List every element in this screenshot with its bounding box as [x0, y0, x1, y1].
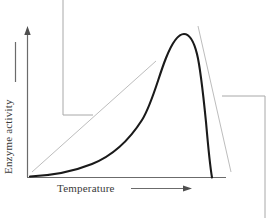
x-axis-label: Temperature — [57, 182, 115, 194]
up-arrow-icon — [24, 26, 30, 35]
y-axis-label: Enzyme activity — [2, 99, 14, 174]
top-left-leader-line — [63, 0, 93, 115]
enzyme-activity-curve — [30, 34, 212, 178]
right-arrow-icon — [183, 185, 192, 191]
enzyme-activity-temperature-figure: Temperature Enzyme activity — [0, 0, 274, 218]
plot-canvas — [0, 0, 274, 218]
rising-tangent-guide — [32, 61, 156, 172]
right-leader-line — [222, 96, 265, 218]
